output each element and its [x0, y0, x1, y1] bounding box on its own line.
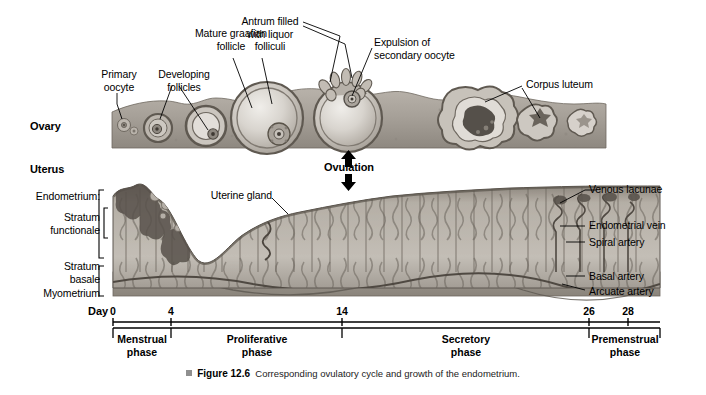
corpus-albicans-2: [567, 109, 596, 136]
mature-graafian-follicle: [231, 82, 303, 154]
corpus-luteum-large: [438, 86, 518, 149]
spiral-artery-label: Spiral artery: [589, 236, 701, 249]
ruptured-follicle: [314, 69, 382, 153]
endometrium-label: Endometrium:: [18, 190, 100, 203]
corpus-albicans-1: [517, 104, 557, 140]
fimbriae-cluster: [316, 69, 374, 103]
tick-label-14: 14: [328, 305, 356, 317]
uterus-section-label: Uterus: [30, 163, 96, 176]
timeline-axis: [113, 318, 660, 326]
corpus-luteum-label: Corpus luteum: [526, 78, 616, 91]
tick-label-28: 28: [614, 305, 642, 317]
endometrial-vein-label: Endometrial vein: [589, 219, 701, 232]
left-brackets: [99, 190, 108, 296]
tick-label-26: 26: [575, 305, 603, 317]
figure-number: Figure 12.6: [197, 368, 250, 379]
uterine-gland-structure: [263, 222, 271, 260]
stratum-basale-label: Stratum basale: [18, 260, 100, 285]
myometrium-label: Myometrium: [18, 287, 100, 300]
antrum-label: Antrum filled with liquor folliculi: [232, 15, 308, 53]
caption-text: Corresponding ovulatory cycle and growth…: [255, 368, 520, 379]
expulsion-label: Expulsion of secondary oocyte: [374, 36, 470, 61]
stratum-functionale-label: Stratum functionale: [18, 211, 100, 236]
ovary-section-label: Ovary: [30, 120, 96, 133]
arcuate-artery-label: Arcuate artery: [589, 285, 701, 298]
secondary-oocyte: [344, 91, 360, 107]
phase-label-proliferative: Proliferative phase: [210, 333, 304, 359]
developing-follicles-label: Developing follicles: [146, 68, 222, 93]
sloughing-tissue: [116, 182, 191, 265]
phase-label-menstrual: Menstrual phase: [96, 333, 188, 359]
phase-label-secretory: Secretory phase: [419, 333, 513, 359]
venous-lacunae-label: Venous lacunae: [589, 183, 701, 196]
figure-container: Ovary Uterus Ovulation Primary oocyte De…: [0, 0, 706, 395]
developing-follicle-2: [186, 106, 226, 146]
phase-label-premenstrual: Premenstrual phase: [578, 333, 672, 359]
figure-caption: Figure 12.6 Corresponding ovulatory cycl…: [0, 368, 706, 379]
caption-bullet-icon: [186, 370, 192, 376]
developing-follicle-1: [144, 114, 172, 142]
uterus-leader-lines: [272, 190, 596, 290]
tick-label-0: 0: [99, 305, 127, 317]
basal-artery-label: Basal artery: [589, 270, 701, 283]
primary-oocyte-label: Primary oocyte: [88, 68, 150, 93]
uterine-gland-label: Uterine gland: [190, 189, 272, 202]
cumulus-oophorus: [268, 123, 290, 145]
ovulation-label: Ovulation: [306, 161, 392, 174]
primary-oocyte-structure: [118, 119, 139, 136]
tick-label-4: 4: [157, 305, 185, 317]
